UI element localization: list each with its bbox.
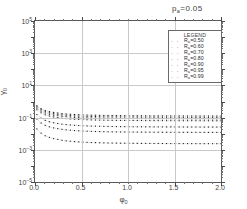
y-tick-major	[221, 85, 225, 86]
chart-title-rest: =0.05	[180, 4, 202, 13]
y-tick-minor	[33, 120, 35, 121]
x-tick-minor	[91, 19, 92, 21]
y-tick-minor	[221, 174, 223, 175]
x-tick-major	[175, 17, 176, 21]
x-tick-label: 0.0	[29, 184, 39, 191]
y-tick-minor	[221, 105, 223, 106]
x-tick-minor	[212, 19, 213, 21]
x-tick-minor	[165, 19, 166, 21]
y-tick-minor	[33, 142, 35, 143]
y-tick-minor	[33, 40, 35, 41]
y-tick-minor	[221, 27, 223, 28]
x-tick-label: 0.5	[76, 184, 86, 191]
y-tick-major	[221, 21, 225, 22]
y-tick-minor	[221, 104, 223, 105]
x-tick-minor	[109, 19, 110, 21]
gridline-vertical	[82, 21, 83, 182]
y-tick-major	[221, 134, 225, 135]
y-tick-minor	[33, 139, 35, 140]
y-tick-label: 10−1	[19, 112, 33, 121]
y-tick-minor	[221, 137, 223, 138]
y-tick-minor	[33, 56, 35, 57]
y-tick-minor	[33, 153, 35, 154]
y-tick-minor	[33, 64, 35, 65]
y-tick-minor	[221, 152, 223, 153]
x-axis-title: φ0	[0, 195, 247, 205]
x-tick-minor	[100, 19, 101, 21]
y-tick-minor	[33, 42, 35, 43]
x-tick-minor	[193, 19, 194, 21]
y-tick-minor	[33, 155, 35, 156]
x-tick-minor	[184, 19, 185, 21]
x-axis-title-subscript: 0	[125, 199, 128, 205]
y-tick-minor	[33, 158, 35, 159]
y-tick-minor	[221, 120, 223, 121]
y-tick-minor	[221, 126, 223, 127]
y-tick-minor	[221, 172, 223, 173]
y-tick-minor	[33, 26, 35, 27]
y-tick-major	[31, 37, 35, 38]
x-tick-major	[221, 17, 222, 21]
y-tick-minor	[33, 74, 35, 75]
y-tick-major	[31, 21, 35, 22]
y-tick-minor	[33, 78, 35, 79]
x-tick-minor	[63, 19, 64, 21]
y-tick-minor	[33, 89, 35, 90]
y-tick-minor	[221, 156, 223, 157]
y-tick-minor	[221, 89, 223, 90]
x-tick-label: 1.0	[122, 184, 132, 191]
y-tick-major	[31, 150, 35, 151]
y-tick-minor	[33, 113, 35, 114]
y-tick-minor	[33, 168, 35, 169]
y-tick-major	[31, 134, 35, 135]
y-tick-minor	[33, 122, 35, 123]
y-tick-minor	[221, 171, 223, 172]
y-tick-minor	[33, 27, 35, 28]
y-tick-minor	[221, 97, 223, 98]
y-tick-minor	[221, 142, 223, 143]
x-tick-minor	[147, 19, 148, 21]
y-tick-minor	[33, 29, 35, 30]
y-tick-major	[31, 166, 35, 167]
y-tick-major	[221, 118, 225, 119]
x-tick-minor	[72, 19, 73, 21]
y-tick-minor	[33, 129, 35, 130]
y-tick-minor	[33, 108, 35, 109]
y-tick-minor	[33, 171, 35, 172]
x-tick-label: 1.5	[169, 184, 179, 191]
y-tick-minor	[33, 140, 35, 141]
y-tick-minor	[33, 124, 35, 125]
y-tick-minor	[33, 94, 35, 95]
y-tick-minor	[33, 126, 35, 127]
x-tick-minor	[44, 19, 45, 21]
y-tick-minor	[221, 129, 223, 130]
y-tick-minor	[33, 172, 35, 173]
y-tick-minor	[33, 104, 35, 105]
y-tick-minor	[221, 169, 223, 170]
y-tick-minor	[33, 106, 35, 107]
x-tick-minor	[119, 19, 120, 21]
y-tick-major	[31, 102, 35, 103]
y-tick-minor	[221, 140, 223, 141]
y-tick-minor	[33, 48, 35, 49]
y-tick-minor	[221, 161, 223, 162]
y-tick-minor	[33, 152, 35, 153]
y-tick-minor	[33, 32, 35, 33]
legend-item-label: Ra=0.99	[184, 73, 204, 81]
y-tick-minor	[33, 156, 35, 157]
chart-title: pa=0.05	[172, 4, 203, 14]
y-tick-minor	[221, 90, 223, 91]
y-tick-label: 105	[21, 16, 32, 25]
y-tick-minor	[221, 136, 223, 137]
x-tick-major	[82, 17, 83, 21]
y-tick-major	[31, 69, 35, 70]
y-tick-minor	[221, 122, 223, 123]
y-tick-minor	[33, 174, 35, 175]
y-tick-minor	[221, 139, 223, 140]
y-tick-minor	[221, 124, 223, 125]
y-tick-minor	[33, 121, 35, 122]
y-tick-minor	[221, 113, 223, 114]
y-tick-minor	[221, 23, 223, 24]
y-tick-minor	[33, 58, 35, 59]
y-tick-minor	[33, 23, 35, 24]
